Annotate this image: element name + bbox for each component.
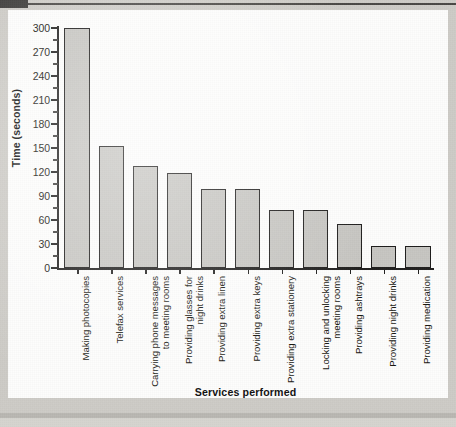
y-tick-major [51, 147, 58, 149]
y-tick-minor [53, 111, 58, 112]
y-tick-major [51, 219, 58, 221]
y-tick-label: 90 [4, 190, 50, 202]
x-tick [77, 270, 79, 274]
y-tick-minor [53, 159, 58, 160]
x-tick [350, 270, 352, 274]
y-tick-major [51, 99, 58, 101]
x-axis-line [57, 268, 434, 270]
y-tick-minor [53, 87, 58, 88]
x-tick [248, 270, 250, 274]
x-tick [111, 270, 113, 274]
bar [371, 246, 396, 268]
y-tick-minor [53, 255, 58, 256]
x-tick [316, 270, 318, 274]
y-tick-label: 0 [4, 262, 50, 274]
y-tick-major [51, 267, 58, 269]
y-tick-major [51, 171, 58, 173]
y-tick-label: 60 [4, 214, 50, 226]
y-tick-major [51, 195, 58, 197]
y-axis-title: Time (seconds) [10, 68, 22, 188]
x-axis-title: Services performed [57, 386, 434, 398]
bar [167, 173, 192, 268]
bar [405, 246, 430, 268]
bottom-edge [0, 418, 456, 427]
y-tick-label: 30 [4, 238, 50, 250]
y-tick-minor [53, 135, 58, 136]
x-tick [179, 270, 181, 274]
bar [64, 28, 89, 268]
y-tick-major [51, 27, 58, 29]
y-tick-label: 270 [4, 46, 50, 58]
bar [337, 224, 362, 268]
bar [133, 166, 158, 268]
y-tick-minor [53, 207, 58, 208]
bar [235, 189, 260, 268]
bar [269, 210, 294, 268]
bar [99, 146, 124, 268]
plot-area [57, 28, 432, 268]
page-edge-block [0, 0, 28, 8]
x-tick [213, 270, 215, 274]
y-tick-major [51, 51, 58, 53]
bar [201, 189, 226, 268]
y-tick-major [51, 75, 58, 77]
y-tick-minor [53, 63, 58, 64]
y-tick-major [51, 243, 58, 245]
y-tick-label: 300 [4, 22, 50, 34]
bar [303, 210, 328, 268]
x-tick [418, 270, 420, 274]
top-rule [28, 3, 456, 5]
y-tick-minor [53, 39, 58, 40]
x-tick [282, 270, 284, 274]
y-tick-minor [53, 183, 58, 184]
y-tick-major [51, 123, 58, 125]
y-axis-tick-labels: 0306090120150180210240270300 [0, 0, 50, 400]
scanned-chart-page: 0306090120150180210240270300 Time (secon… [0, 0, 456, 427]
x-tick [145, 270, 147, 274]
x-tick [384, 270, 386, 274]
y-tick-minor [53, 231, 58, 232]
